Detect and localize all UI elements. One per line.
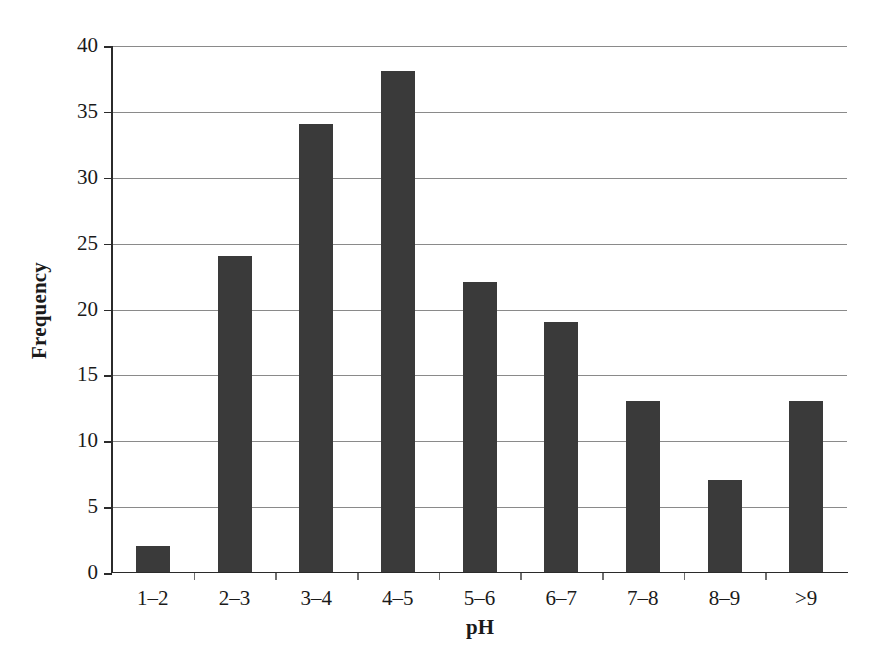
- x-tick-label: 1–2: [137, 588, 169, 609]
- x-tick-label: 4–5: [382, 588, 414, 609]
- y-tick-mark: [104, 112, 112, 114]
- y-tick-mark: [104, 310, 112, 312]
- y-tick-label: 15: [46, 364, 98, 385]
- x-tick-label: 7–8: [627, 588, 659, 609]
- x-tick-mark: [684, 573, 686, 580]
- gridline: [112, 178, 847, 179]
- x-tick-mark: [275, 573, 277, 580]
- gridline: [112, 46, 847, 47]
- y-tick-label: 40: [46, 35, 98, 56]
- x-tick-label: >9: [795, 588, 817, 609]
- bar: [381, 71, 415, 572]
- x-tick-label: 8–9: [709, 588, 741, 609]
- y-tick-mark: [104, 244, 112, 246]
- y-tick-mark: [104, 573, 112, 575]
- y-tick-mark: [104, 441, 112, 443]
- bar: [463, 282, 497, 572]
- y-tick-label: 10: [46, 430, 98, 451]
- bar-chart: Frequency 0510152025303540 1–22–33–44–55…: [0, 0, 886, 670]
- bar: [544, 322, 578, 572]
- y-tick-label: 25: [46, 233, 98, 254]
- x-tick-mark: [602, 573, 604, 580]
- y-tick-mark: [104, 507, 112, 509]
- y-tick-mark: [104, 375, 112, 377]
- bar: [708, 480, 742, 572]
- gridline: [112, 112, 847, 113]
- plot-area: 0510152025303540 1–22–33–44–55–66–77–88–…: [112, 46, 847, 573]
- x-tick-mark: [520, 573, 522, 580]
- x-tick-mark: [439, 573, 441, 580]
- gridline: [112, 244, 847, 245]
- y-tick-label: 35: [46, 101, 98, 122]
- bar: [136, 546, 170, 572]
- x-tick-label: 2–3: [219, 588, 251, 609]
- x-tick-label: 5–6: [464, 588, 496, 609]
- y-tick-label: 30: [46, 167, 98, 188]
- x-tick-label: 3–4: [300, 588, 332, 609]
- bar: [299, 124, 333, 572]
- x-axis-title: pH: [110, 615, 850, 640]
- bar: [218, 256, 252, 572]
- x-tick-mark: [194, 573, 196, 580]
- y-tick-mark: [104, 178, 112, 180]
- bar: [626, 401, 660, 572]
- y-tick-mark: [104, 46, 112, 48]
- y-tick-label: 20: [46, 299, 98, 320]
- bar: [789, 401, 823, 572]
- x-tick-mark: [357, 573, 359, 580]
- x-tick-mark: [765, 573, 767, 580]
- y-tick-label: 0: [46, 562, 98, 583]
- x-tick-label: 6–7: [545, 588, 577, 609]
- y-tick-label: 5: [46, 496, 98, 517]
